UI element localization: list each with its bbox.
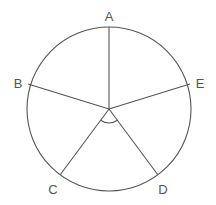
label-c: C bbox=[48, 182, 57, 197]
label-a: A bbox=[105, 9, 114, 24]
radius-b bbox=[28, 84, 109, 109]
radius-e bbox=[109, 84, 190, 109]
radius-d bbox=[109, 109, 158, 175]
label-d: D bbox=[158, 182, 167, 197]
angle-marker-cod bbox=[101, 120, 118, 123]
radius-c bbox=[60, 109, 109, 175]
label-e: E bbox=[196, 76, 205, 91]
pentagon-radii-diagram: A B C D E bbox=[0, 0, 216, 205]
label-b: B bbox=[14, 76, 23, 91]
